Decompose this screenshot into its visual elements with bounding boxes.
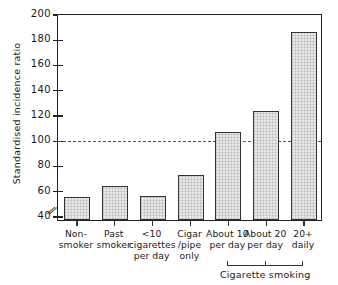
y-axis-tick-label: 180 [31, 33, 51, 44]
bar [102, 186, 128, 220]
y-axis-tick-mark-right [58, 65, 63, 66]
x-axis-tick [76, 220, 77, 226]
y-axis-tick-mark-right [58, 216, 63, 217]
bar [178, 175, 204, 220]
y-axis-tick-label: 60 [37, 185, 51, 196]
x-axis-tick [114, 220, 115, 226]
y-axis-tick-label: 80 [37, 159, 51, 170]
y-axis-tick-label: 120 [31, 109, 51, 120]
y-axis-tick-mark-right [58, 166, 63, 167]
chart-figure: Standardised incidence ratio 40608010012… [0, 0, 338, 285]
y-axis-tick-mark-right [58, 40, 63, 41]
y-axis-tick-label: 140 [31, 84, 51, 95]
y-axis-tick-label: 100 [31, 134, 51, 145]
group-bracket-nub [265, 261, 266, 266]
x-axis-tick [152, 220, 153, 226]
bar [215, 132, 241, 220]
y-axis-tick-mark-right [58, 191, 63, 192]
x-axis-tick [303, 220, 304, 226]
x-axis-tick [190, 220, 191, 226]
y-axis-tick-mark-right [58, 90, 63, 91]
bar [291, 32, 317, 220]
y-axis-title: Standardised incidence ratio [11, 14, 22, 214]
y-axis-tick-mark [53, 14, 58, 15]
plot-area: 406080100120140160180200 [57, 14, 322, 221]
group-bracket-label: Cigarette smoking [187, 269, 338, 280]
y-axis-tick-mark-right [58, 115, 63, 116]
group-bracket [227, 261, 303, 266]
reference-line-100 [58, 141, 321, 142]
bar [64, 197, 90, 220]
y-axis-tick-label: 200 [31, 8, 51, 19]
bar [140, 196, 166, 220]
y-axis-tick-label: 160 [31, 58, 51, 69]
bar [253, 111, 279, 220]
x-axis-tick [266, 220, 267, 226]
x-axis-label: 20+ daily [280, 228, 326, 250]
x-axis-tick [228, 220, 229, 226]
